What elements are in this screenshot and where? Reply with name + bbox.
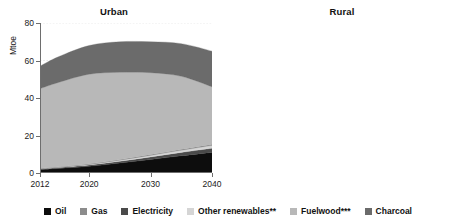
y-tick	[36, 61, 40, 62]
legend-swatch-icon	[121, 208, 128, 215]
chart-panel-urban: Urban Mtoe 0204060802012202020302040	[0, 0, 228, 196]
legend-item-oil[interactable]: Oil	[44, 206, 66, 216]
plot-area-urban	[40, 23, 212, 173]
plot-region-urban: 0204060802012202020302040	[40, 23, 212, 173]
x-tick	[212, 173, 213, 177]
legend-item-other-renewables[interactable]: Other renewables**	[187, 206, 276, 216]
legend-swatch-icon	[44, 208, 51, 215]
legend-item-electricity[interactable]: Electricity	[121, 206, 173, 216]
legend-label: Other renewables**	[198, 206, 276, 216]
area-chart-svg-urban	[40, 23, 212, 173]
x-tick-label: 2012	[31, 179, 50, 189]
legend-label: Oil	[55, 206, 66, 216]
x-axis-line-urban	[40, 172, 212, 173]
y-tick-label: 40	[25, 93, 34, 103]
legend-item-gas[interactable]: Gas	[80, 206, 107, 216]
legend-swatch-icon	[80, 208, 87, 215]
y-axis-line-urban	[40, 23, 41, 173]
legend-item-fuelwood[interactable]: Fuelwood***	[290, 206, 351, 216]
y-tick-label: 0	[29, 168, 34, 178]
x-tick	[151, 173, 152, 177]
x-tick-label: 2020	[80, 179, 99, 189]
chart-title-urban: Urban	[0, 6, 228, 17]
legend-label: Fuelwood***	[301, 206, 351, 216]
y-tick-label: 80	[25, 18, 34, 28]
y-tick	[36, 98, 40, 99]
y-tick	[36, 23, 40, 24]
legend-swatch-icon	[365, 208, 372, 215]
legend-label: Charcoal	[376, 206, 412, 216]
legend-item-charcoal[interactable]: Charcoal	[365, 206, 412, 216]
chart-panel-rural: Rural Mtoe 05010015020025020122020203020…	[228, 0, 456, 196]
y-tick-label: 20	[25, 131, 34, 141]
y-tick-label: 60	[25, 56, 34, 66]
x-tick	[40, 173, 41, 177]
x-tick	[89, 173, 90, 177]
legend-swatch-icon	[290, 208, 297, 215]
legend-swatch-icon	[187, 208, 194, 215]
chart-title-rural: Rural	[228, 6, 456, 17]
y-tick	[36, 136, 40, 137]
figure-root: Urban Mtoe 0204060802012202020302040 Rur…	[0, 0, 456, 224]
x-tick-label: 2040	[203, 179, 222, 189]
y-axis-unit-urban: Mtoe	[8, 36, 18, 55]
legend-label: Electricity	[132, 206, 173, 216]
x-tick-label: 2030	[141, 179, 160, 189]
legend-label: Gas	[91, 206, 107, 216]
chart-legend: OilGasElectricityOther renewables**Fuelw…	[0, 198, 456, 224]
